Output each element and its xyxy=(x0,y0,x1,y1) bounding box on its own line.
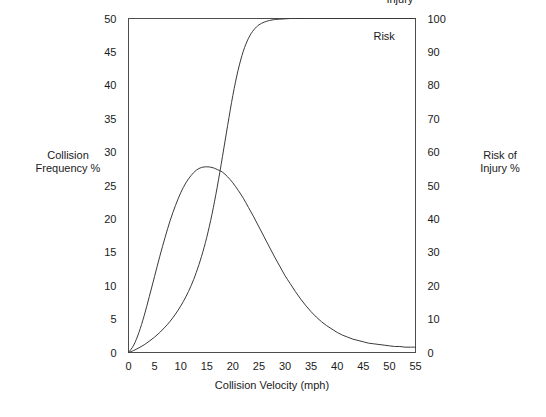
x-axis-tick-label: 30 xyxy=(279,360,291,372)
x-axis-tick-label: 5 xyxy=(152,360,158,372)
y-axis-right-tick-label: 100 xyxy=(428,13,446,25)
y-axis-right-title-line1: Risk of xyxy=(483,149,518,161)
y-axis-left-tick-label: 50 xyxy=(104,13,116,25)
y-axis-left-tick-label: 35 xyxy=(104,113,116,125)
y-axis-left-tick-label: 40 xyxy=(104,79,116,91)
x-axis-tick-label: 20 xyxy=(227,360,239,372)
x-axis-tick-label: 25 xyxy=(253,360,265,372)
y-axis-left-title-line1: Collision xyxy=(47,149,89,161)
y-axis-right-tick-label: 10 xyxy=(428,313,440,325)
x-axis-tick-label: 55 xyxy=(409,360,421,372)
y-axis-left-tick-label: 20 xyxy=(104,213,116,225)
y-axis-left-tick-label: 0 xyxy=(110,347,116,359)
y-axis-right-tick-label: 80 xyxy=(428,79,440,91)
x-axis-tick-label: 45 xyxy=(357,360,369,372)
y-axis-right-tick-label: 20 xyxy=(428,280,440,292)
chart-page: 05101520253035404550 0102030405060708090… xyxy=(0,0,546,417)
x-axis-tick-label: 35 xyxy=(305,360,317,372)
y-axis-right-title-line2: Injury % xyxy=(480,162,520,174)
y-axis-left-tick-label: 15 xyxy=(104,246,116,258)
y-axis-left-title-line2: Frequency % xyxy=(36,162,101,174)
x-axis-tick-label: 50 xyxy=(383,360,395,372)
series-annotation-label: Injury xyxy=(386,0,413,5)
x-axis-tick-label: 15 xyxy=(201,360,213,372)
y-axis-right-tick-label: 70 xyxy=(428,113,440,125)
y-axis-right-tick-label: 50 xyxy=(428,180,440,192)
chart-background xyxy=(0,0,546,417)
collision-injury-chart: 05101520253035404550 0102030405060708090… xyxy=(0,0,546,417)
x-axis-tick-label: 0 xyxy=(125,360,131,372)
y-axis-right-tick-label: 90 xyxy=(428,46,440,58)
y-axis-left-tick-label: 30 xyxy=(104,146,116,158)
y-axis-left-tick-label: 5 xyxy=(110,313,116,325)
x-axis-tick-label: 40 xyxy=(331,360,343,372)
y-axis-left-tick-label: 10 xyxy=(104,280,116,292)
x-axis-title: Collision Velocity (mph) xyxy=(215,379,329,391)
series-annotation-label: Risk xyxy=(373,30,395,42)
y-axis-right-tick-label: 0 xyxy=(428,347,434,359)
y-axis-left-tick-label: 45 xyxy=(104,46,116,58)
y-axis-right-tick-label: 60 xyxy=(428,146,440,158)
y-axis-right-tick-label: 30 xyxy=(428,246,440,258)
y-axis-right-tick-label: 40 xyxy=(428,213,440,225)
x-axis-tick-label: 10 xyxy=(175,360,187,372)
y-axis-left-tick-label: 25 xyxy=(104,180,116,192)
